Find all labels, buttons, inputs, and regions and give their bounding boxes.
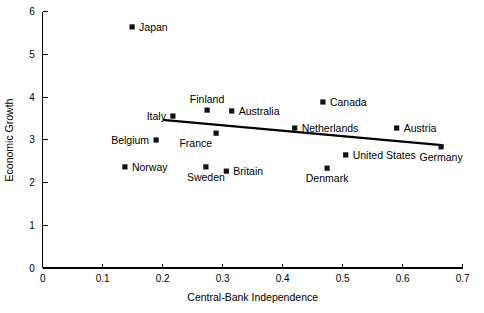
data-point-label: Austria (404, 122, 437, 134)
x-tick-label-6: 0.6 (396, 273, 410, 284)
y-tick-label-1: 1 (29, 220, 35, 231)
data-point-marker[interactable] (394, 125, 399, 130)
data-point-marker[interactable] (325, 166, 330, 171)
data-point-marker[interactable] (343, 152, 348, 157)
data-point-label: Canada (330, 96, 367, 108)
data-point-marker[interactable] (170, 113, 175, 118)
data-point-marker[interactable] (203, 164, 208, 169)
data-point-marker[interactable] (205, 108, 210, 113)
data-point-label: Italy (147, 110, 167, 122)
data-point-label: Belgium (111, 134, 149, 146)
data-point-marker[interactable] (154, 137, 159, 142)
data-point-label: Britain (233, 165, 263, 177)
y-axis-title: Economic Growth (3, 98, 15, 181)
x-tick-label-5: 0.5 (336, 273, 350, 284)
y-tick-label-3: 3 (29, 134, 35, 145)
x-axis-title: Central-Bank Independence (187, 291, 318, 303)
data-point-marker[interactable] (292, 125, 297, 130)
data-point-marker[interactable] (224, 169, 229, 174)
data-point-label: Finland (190, 93, 225, 105)
data-point-label: Australia (239, 105, 280, 117)
data-point-label: Norway (132, 161, 168, 173)
data-point-label: Netherlands (302, 122, 359, 134)
x-tick-label-0: 0 (40, 273, 46, 284)
x-tick-label-7: 0.7 (456, 273, 470, 284)
data-point-marker[interactable] (122, 164, 127, 169)
data-point-marker[interactable] (320, 99, 325, 104)
y-tick-label-6: 6 (29, 6, 35, 17)
data-point-label: United States (353, 149, 416, 161)
data-point-label: France (179, 137, 212, 149)
data-point-label: Sweden (187, 171, 225, 183)
x-tick-label-1: 0.1 (96, 273, 110, 284)
x-tick-label-4: 0.4 (276, 273, 290, 284)
y-tick-label-2: 2 (29, 177, 35, 188)
y-tick-label-5: 5 (29, 49, 35, 60)
y-tick-label-0: 0 (29, 263, 35, 274)
chart-canvas: 00.10.20.30.40.50.60.70123456Central-Ban… (0, 0, 484, 313)
data-point-label: Denmark (306, 172, 349, 184)
data-point-label: Germany (420, 151, 464, 163)
data-point-marker[interactable] (130, 24, 135, 29)
x-tick-label-3: 0.3 (216, 273, 230, 284)
x-tick-label-2: 0.2 (156, 273, 170, 284)
y-tick-label-4: 4 (29, 92, 35, 103)
data-point-label: Japan (139, 21, 168, 33)
data-point-marker[interactable] (439, 144, 444, 149)
scatter-chart: 00.10.20.30.40.50.60.70123456Central-Ban… (0, 0, 484, 313)
data-point-marker[interactable] (229, 108, 234, 113)
data-point-marker[interactable] (214, 131, 219, 136)
